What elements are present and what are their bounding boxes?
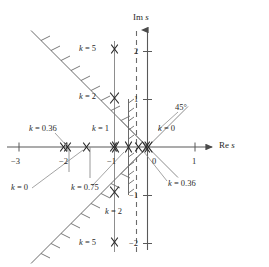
plot-canvas: [0, 0, 269, 267]
ytick-label-1: 1: [134, 95, 138, 104]
root-locus-figure: Re s Im s −3 −2 −1 0 1 2 1 −1 −2 k = 5 k…: [0, 0, 269, 267]
annotation-k-2-upper: k = 2: [79, 92, 96, 101]
real-axis-label: Re s: [219, 141, 235, 150]
annotation-k-036-upper-left: k = 0.36: [29, 124, 57, 133]
tick-drop-lines: [69, 147, 90, 178]
asymptote-45-right-pair: [120, 107, 188, 178]
ytick-label-2: 2: [134, 47, 138, 56]
annotation-k-036-lower-right: k = 0.36: [168, 179, 196, 188]
annotation-k-1: k = 1: [92, 124, 109, 133]
annotation-k-5-lower: k = 5: [79, 238, 96, 247]
xtick-label-minus-2: −2: [59, 157, 68, 166]
annotation-k-075: k = 0.75: [71, 183, 99, 192]
annotation-k-0-lower-left: k = 0: [11, 183, 28, 192]
xtick-label-0: 0: [152, 157, 156, 166]
annotation-k-0-right: k = 0: [158, 124, 175, 133]
annotation-k-2-lower: k = 2: [105, 207, 122, 216]
ytick-label-minus-1: −1: [129, 191, 138, 200]
annotation-k-5-upper: k = 5: [79, 44, 96, 53]
xtick-label-minus-3: −3: [11, 157, 20, 166]
annotation-45-degrees: 45°: [175, 103, 187, 112]
xtick-label-minus-1: −1: [107, 157, 116, 166]
imag-axis-label: Im s: [133, 13, 149, 22]
ytick-label-minus-2: −2: [129, 239, 138, 248]
xtick-label-1: 1: [192, 157, 196, 166]
